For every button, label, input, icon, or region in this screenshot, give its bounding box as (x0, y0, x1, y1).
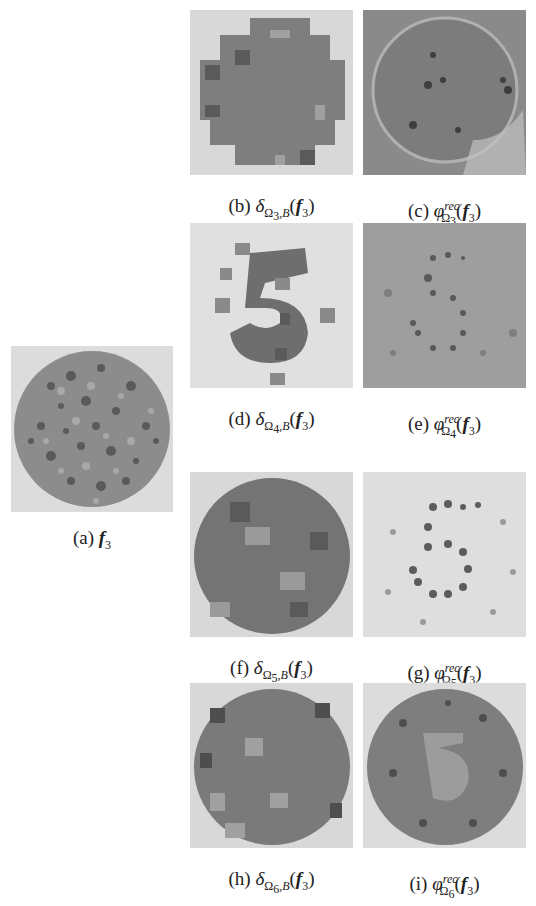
reconstructed-five-image (363, 223, 526, 388)
caption-i: (i) φrecΩ6(f3) (363, 868, 526, 906)
caption-e: (e) φrecΩ4(f3) (363, 408, 526, 446)
block-mosaic-image (190, 683, 353, 848)
image-panel-e-rec-omega4 (363, 223, 526, 388)
reconstructed-plate-image (363, 10, 526, 175)
image-panel-h-delta-omega6 (190, 683, 353, 848)
image-panel-b-delta-omega3 (190, 10, 353, 175)
image-panel-c-rec-omega3 (363, 10, 526, 175)
block-mosaic-image (190, 10, 353, 175)
block-mosaic-image (190, 472, 353, 637)
caption-d: (d) δΩ4,B(f3) (190, 408, 353, 440)
image-panel-g-rec-omega5 (363, 472, 526, 637)
reconstructed-plate-image (363, 683, 526, 848)
caption-label: (a) (73, 527, 94, 548)
reconstructed-five-image (363, 472, 526, 637)
image-panel-i-rec-omega6 (363, 683, 526, 848)
image-panel-f-delta-omega5 (190, 472, 353, 637)
image-panel-d-delta-omega4 (190, 223, 353, 388)
block-mosaic-five-image (190, 223, 353, 388)
caption-a: (a) f3 (40, 527, 144, 556)
ishihara-plate-image (11, 346, 173, 512)
image-panel-a-original-plate (11, 346, 173, 512)
caption-h: (h) δΩ6,B(f3) (190, 868, 353, 900)
